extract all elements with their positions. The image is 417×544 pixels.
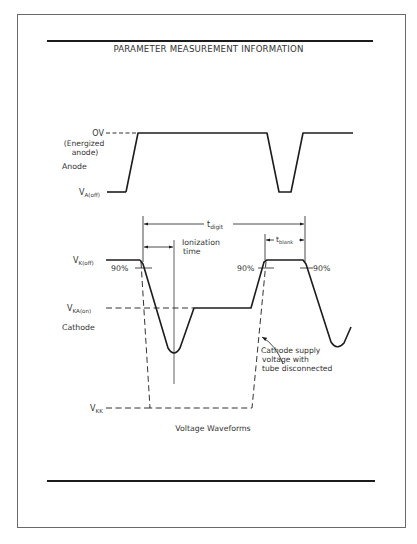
figure-caption: Voltage Waveforms <box>175 424 250 433</box>
ionization-time-label-1: Ionization <box>182 238 220 247</box>
vkk-label: VKK <box>90 404 103 414</box>
voltage-waveform-diagram: OV (Energized anode) Anode VA(off) tdigi… <box>0 0 417 544</box>
vka-on-label: VKA(on) <box>67 304 91 314</box>
vk-off-label: VK(off) <box>73 256 94 266</box>
percent-90-left: 90% <box>111 264 128 273</box>
annotation-line-2: voltage with <box>262 355 309 364</box>
anode-off-level-label: VA(off) <box>79 188 100 198</box>
t-blank-label: tblank <box>276 235 293 245</box>
anode-waveform <box>106 133 353 192</box>
annotation-line-1: Cathode supply <box>261 346 321 355</box>
anode-label: Anode <box>62 162 87 171</box>
anode-energized-note-2: anode) <box>72 148 99 157</box>
ionization-time-label-2: time <box>183 247 201 256</box>
anode-ov-label: OV <box>92 129 104 138</box>
percent-90-right: 90% <box>313 264 330 273</box>
t-digit-label: tdigit <box>207 220 224 231</box>
anode-energized-note-1: (Energized <box>64 139 105 148</box>
annotation-line-3: tube disconnected <box>262 364 333 373</box>
cathode-waveform <box>106 260 351 408</box>
cathode-label: Cathode <box>62 323 95 332</box>
percent-90-mid: 90% <box>237 264 254 273</box>
